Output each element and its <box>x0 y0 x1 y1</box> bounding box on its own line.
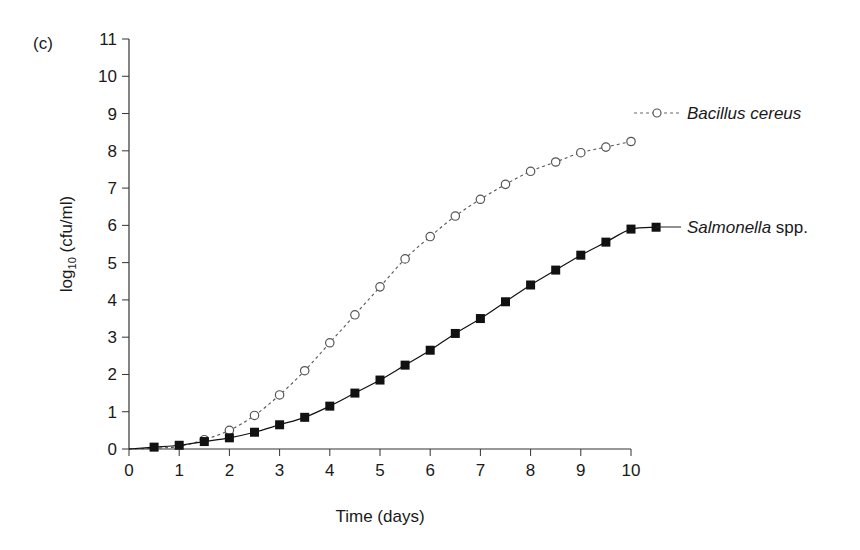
filled-square-marker-icon <box>376 376 385 385</box>
y-tick-label: 5 <box>108 254 117 273</box>
open-circle-marker-icon <box>301 367 309 375</box>
y-tick-label: 1 <box>108 403 117 422</box>
open-circle-marker-icon <box>526 167 534 175</box>
filled-square-marker-icon <box>200 437 209 446</box>
filled-square-marker-icon <box>350 389 359 398</box>
open-circle-marker-icon <box>653 109 661 117</box>
x-axis-title: Time (days) <box>335 507 424 526</box>
open-circle-marker-icon <box>602 143 610 151</box>
y-axis-title: log10 (cfu/ml) <box>57 196 78 292</box>
y-tick-label: 6 <box>108 216 117 235</box>
x-tick-label: 4 <box>325 461 334 480</box>
filled-square-marker-icon <box>426 346 435 355</box>
series-line <box>129 227 656 449</box>
axes: 01234567891011 012345678910 <box>98 30 640 480</box>
y-tick-label: 8 <box>108 142 117 161</box>
legend-salmonella: Salmonella spp. <box>656 218 808 237</box>
filled-square-marker-icon <box>150 443 159 452</box>
x-tick-label: 2 <box>225 461 234 480</box>
filled-square-marker-icon <box>576 251 585 260</box>
series-salmonella-spp <box>129 223 661 452</box>
open-circle-marker-icon <box>326 339 334 347</box>
y-tick-label: 10 <box>98 67 117 86</box>
filled-square-marker-icon <box>451 329 460 338</box>
open-circle-marker-icon <box>501 180 509 188</box>
y-tick-label: 7 <box>108 179 117 198</box>
series-bacillus-cereus <box>129 137 635 449</box>
open-circle-marker-icon <box>552 158 560 166</box>
open-circle-marker-icon <box>275 391 283 399</box>
open-circle-marker-icon <box>426 232 434 240</box>
filled-square-marker-icon <box>325 402 334 411</box>
series-line <box>129 142 631 450</box>
open-circle-marker-icon <box>476 195 484 203</box>
growth-curve-chart: (c) 01234567891011 012345678910 Time (da… <box>0 0 860 550</box>
y-tick-label: 9 <box>108 105 117 124</box>
x-tick-label: 0 <box>124 461 133 480</box>
filled-square-marker-icon <box>601 238 610 247</box>
y-tick-label: 2 <box>108 365 117 384</box>
filled-square-marker-icon <box>501 297 510 306</box>
y-ticks: 01234567891011 <box>98 30 129 459</box>
x-tick-label: 10 <box>622 461 641 480</box>
filled-square-marker-icon <box>300 413 309 422</box>
panel-label: (c) <box>33 34 53 53</box>
open-circle-marker-icon <box>627 137 635 145</box>
filled-square-marker-icon <box>250 428 259 437</box>
y-tick-label: 3 <box>108 328 117 347</box>
x-tick-label: 7 <box>476 461 485 480</box>
x-tick-label: 3 <box>275 461 284 480</box>
filled-square-marker-icon <box>275 420 284 429</box>
y-tick-label: 0 <box>108 440 117 459</box>
filled-square-marker-icon <box>526 281 535 290</box>
filled-square-marker-icon <box>627 225 636 234</box>
x-ticks: 012345678910 <box>124 449 640 480</box>
filled-square-marker-icon <box>551 266 560 275</box>
filled-square-marker-icon <box>401 361 410 370</box>
x-tick-label: 1 <box>174 461 183 480</box>
open-circle-marker-icon <box>351 311 359 319</box>
legend-bacillus-cereus: Bacillus cereus <box>634 104 802 123</box>
open-circle-marker-icon <box>401 255 409 263</box>
x-tick-label: 5 <box>375 461 384 480</box>
filled-square-marker-icon <box>175 441 184 450</box>
open-circle-marker-icon <box>376 283 384 291</box>
x-tick-label: 9 <box>576 461 585 480</box>
open-circle-marker-icon <box>250 411 258 419</box>
open-circle-marker-icon <box>577 148 585 156</box>
series-layer <box>129 137 661 451</box>
open-circle-marker-icon <box>451 212 459 220</box>
x-tick-label: 8 <box>526 461 535 480</box>
open-circle-marker-icon <box>225 426 233 434</box>
x-tick-label: 6 <box>425 461 434 480</box>
y-tick-label: 4 <box>108 291 117 310</box>
legend-label-salmonella: Salmonella spp. <box>687 218 808 237</box>
y-tick-label: 11 <box>99 30 117 49</box>
filled-square-marker-icon <box>225 433 234 442</box>
legend-label-bacillus: Bacillus cereus <box>687 104 802 123</box>
filled-square-marker-icon <box>476 314 485 323</box>
